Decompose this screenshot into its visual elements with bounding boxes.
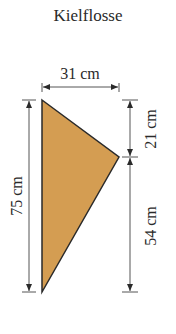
keel-fin-diagram: 31 cm 75 cm 21 cm 54 cm (0, 0, 176, 334)
height-label: 75 cm (8, 176, 25, 216)
width-label: 31 cm (60, 65, 100, 82)
lower-right-label: 54 cm (142, 206, 159, 246)
height-dimension: 75 cm (8, 100, 36, 292)
keel-fin-shape (42, 100, 119, 292)
lower-right-dimension: 54 cm (122, 158, 159, 292)
width-dimension: 31 cm (42, 65, 119, 92)
upper-right-label: 21 cm (142, 109, 159, 149)
upper-right-dimension: 21 cm (122, 100, 159, 157)
